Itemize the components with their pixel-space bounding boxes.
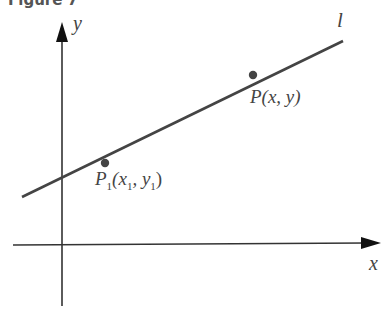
y-axis-label: y [73,12,82,35]
figure-canvas: Figure 7 y x l P(x, y) P1(x1, y1) [0,0,384,324]
x-axis [13,237,381,249]
y-axis [56,22,68,306]
point-p-label: P(x, y) [250,86,301,108]
line-l [22,41,343,197]
point-p [249,71,257,79]
point-p1-label: P1(x1, y1) [95,168,162,192]
line-label: l [337,8,343,33]
p1-x: (x [112,168,127,189]
x-axis-label: x [369,252,378,275]
p1-name: P [95,168,107,189]
p1-close: ) [156,168,162,189]
diagram-svg [0,0,384,324]
point-p1 [101,159,109,167]
p1-y: , y [132,168,150,189]
